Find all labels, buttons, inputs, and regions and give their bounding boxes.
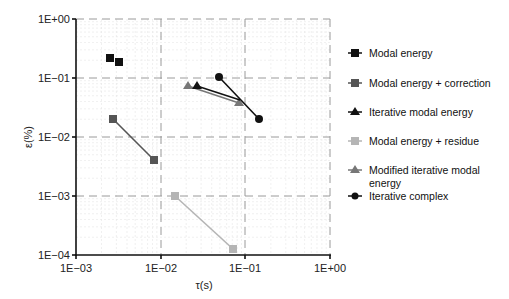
- x-axis-title: τ(s): [195, 279, 212, 291]
- legend-item: Iterative complex: [348, 190, 449, 202]
- legend-label: Iterative modal energy: [369, 106, 474, 118]
- x-tick-label: 1E−02: [145, 262, 177, 274]
- major-grid: [76, 19, 330, 255]
- legend-label: energy: [369, 177, 402, 189]
- legend-item: Modified iterative modal energy: [348, 164, 480, 189]
- y-tick-label: 1E+00: [38, 13, 70, 25]
- legend-label: Iterative complex: [369, 190, 449, 202]
- y-tick-label: 1E−04: [38, 249, 70, 261]
- x-tick-label: 1E−01: [229, 262, 261, 274]
- chart-figure: 1E+00 1E−01 1E−02 1E−03 1E−04 1E−03 1E−0…: [0, 0, 509, 299]
- x-tick-label: 1E−03: [60, 262, 92, 274]
- legend: Modal energy Modal energy + correction I…: [348, 47, 491, 202]
- legend-item: Modal energy + residue: [348, 135, 479, 147]
- series-modal-energy-residue: [171, 192, 237, 253]
- legend-item: Iterative modal energy: [348, 106, 474, 118]
- y-tick-label: 1E−02: [38, 131, 70, 143]
- legend-label: Modal energy: [369, 47, 433, 59]
- series-modal-energy: [106, 54, 123, 66]
- x-tick-label: 1E+00: [314, 262, 346, 274]
- y-axis-title: ε(%): [22, 126, 34, 148]
- legend-label: Modified iterative modal: [369, 164, 480, 176]
- chart-svg: 1E+00 1E−01 1E−02 1E−03 1E−04 1E−03 1E−0…: [0, 0, 509, 299]
- legend-item: Modal energy + correction: [348, 77, 491, 89]
- y-tick-label: 1E−01: [38, 72, 70, 84]
- legend-item: Modal energy: [348, 47, 433, 59]
- legend-label: Modal energy + residue: [369, 135, 479, 147]
- legend-label: Modal energy + correction: [369, 77, 491, 89]
- y-tick-label: 1E−03: [38, 190, 70, 202]
